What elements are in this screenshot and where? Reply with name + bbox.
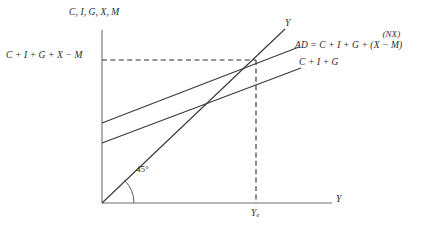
equilibrium-output-label: Ye	[251, 208, 259, 219]
aggregate-demand-label: AD = C + I + G + (X − M)	[295, 40, 402, 50]
aggregate-demand-label-group: (NX) AD = C + I + G + (X − M)	[295, 30, 402, 50]
equilibrium-output-subscript: e	[256, 211, 259, 218]
economics-diagram: C, I, G, X, M Y C + I + G + X − M 45° Ye…	[0, 0, 429, 236]
vertical-intercept-label: C + I + G + X − M	[6, 50, 82, 60]
domestic-absorption-line	[102, 68, 301, 143]
aggregate-demand-line	[102, 47, 299, 123]
angle-label: 45°	[136, 165, 149, 175]
forty-five-line-label: Y	[285, 18, 290, 28]
angle-arc	[125, 180, 134, 203]
domestic-absorption-label: C + I + G	[299, 57, 339, 67]
net-exports-annotation: (NX)	[295, 30, 402, 40]
x-axis-label: Y	[336, 194, 341, 204]
y-axis-label: C, I, G, X, M	[69, 7, 119, 17]
forty-five-degree-line	[102, 29, 285, 203]
